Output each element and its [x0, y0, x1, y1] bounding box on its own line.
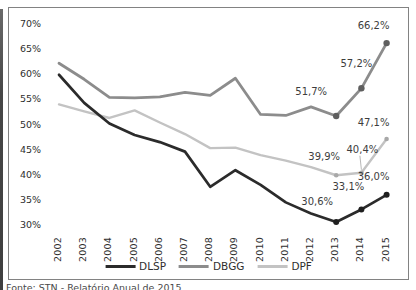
- data-label-dbgg-2015: 66,2%: [358, 20, 390, 31]
- x-tick-label: 2011: [279, 234, 291, 262]
- marker-dpf-2013: [334, 173, 339, 178]
- y-tick-label: 60%: [11, 68, 41, 80]
- x-tick-label: 2013: [329, 234, 341, 262]
- marker-dlsp-2014: [358, 206, 364, 212]
- data-label-dbgg-2014: 57,2%: [341, 58, 373, 69]
- marker-dbgg-2014: [358, 85, 364, 91]
- legend-item-dbgg: DBGG: [179, 260, 244, 272]
- series-line-dbgg: [59, 43, 387, 116]
- label-leader-line: [360, 156, 362, 170]
- data-label-dbgg-2013: 51,7%: [295, 85, 327, 96]
- legend-label-dpf: DPF: [291, 260, 311, 272]
- y-tick-label: 35%: [11, 194, 41, 206]
- x-tick-label: 2003: [77, 234, 89, 262]
- legend-label-dbgg: DBGG: [213, 260, 244, 272]
- legend-line-swatch-dbgg: [179, 265, 209, 268]
- data-label-dlsp-2014: 33,1%: [333, 181, 365, 192]
- y-tick-label: 45%: [11, 144, 41, 156]
- legend-item-dlsp: DLSP: [105, 260, 166, 272]
- legend-line-swatch-dlsp: [105, 265, 135, 268]
- chart-page: 70%65%60%55%50%45%40%35%30% 200220032004…: [0, 0, 416, 290]
- x-tick-label: 2010: [254, 234, 266, 262]
- source-caption: Fonte: STN - Relatório Anual de 2015: [6, 282, 182, 290]
- marker-dpf-2015: [384, 137, 389, 142]
- data-label-dpf-2015: 47,1%: [358, 117, 390, 128]
- legend-line-swatch-dpf: [257, 265, 287, 268]
- y-tick-label: 55%: [11, 93, 41, 105]
- marker-dbgg-2013: [333, 113, 339, 119]
- scanned-page-edge-shadow: [0, 9, 3, 290]
- chart-frame: 70%65%60%55%50%45%40%35%30% 200220032004…: [8, 7, 409, 280]
- x-tick-label: 2012: [304, 234, 316, 262]
- marker-dlsp-2013: [333, 219, 339, 225]
- data-label-dlsp-2013: 30,6%: [301, 195, 333, 206]
- y-tick-label: 65%: [11, 43, 41, 55]
- y-tick-label: 30%: [11, 219, 41, 231]
- marker-dlsp-2015: [384, 192, 390, 198]
- y-tick-label: 70%: [11, 18, 41, 30]
- x-tick-label: 2006: [153, 234, 165, 262]
- x-tick-label: 2009: [228, 234, 240, 262]
- x-tick-label: 2007: [178, 234, 190, 262]
- y-tick-label: 50%: [11, 119, 41, 131]
- x-tick-label: 2008: [203, 234, 215, 262]
- x-tick-label: 2005: [128, 234, 140, 262]
- x-tick-label: 2004: [102, 234, 114, 262]
- marker-dbgg-2015: [383, 40, 389, 46]
- x-tick-label: 2002: [52, 234, 64, 262]
- legend-label-dlsp: DLSP: [139, 260, 166, 272]
- data-label-dpf-2013: 39,9%: [308, 151, 340, 162]
- x-tick-label: 2014: [354, 234, 366, 262]
- data-label-dpf-2014: 40,4%: [347, 143, 379, 154]
- y-tick-label: 40%: [11, 169, 41, 181]
- chart-legend: DLSPDBGGDPF: [105, 260, 312, 272]
- x-tick-label: 2015: [380, 234, 392, 262]
- legend-item-dpf: DPF: [257, 260, 311, 272]
- data-label-dlsp-2015: 36,0%: [358, 170, 390, 181]
